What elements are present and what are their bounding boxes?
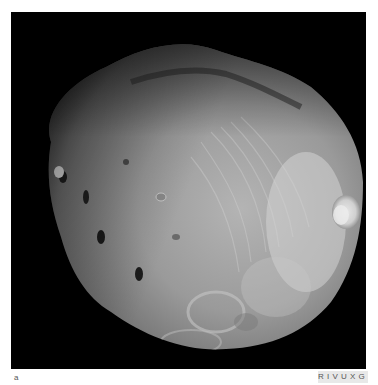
wavelength-band-badge: RIVUXG bbox=[318, 371, 368, 383]
moon-photograph bbox=[11, 12, 366, 369]
panel-label: a bbox=[14, 373, 18, 383]
phobos-image bbox=[11, 12, 366, 369]
